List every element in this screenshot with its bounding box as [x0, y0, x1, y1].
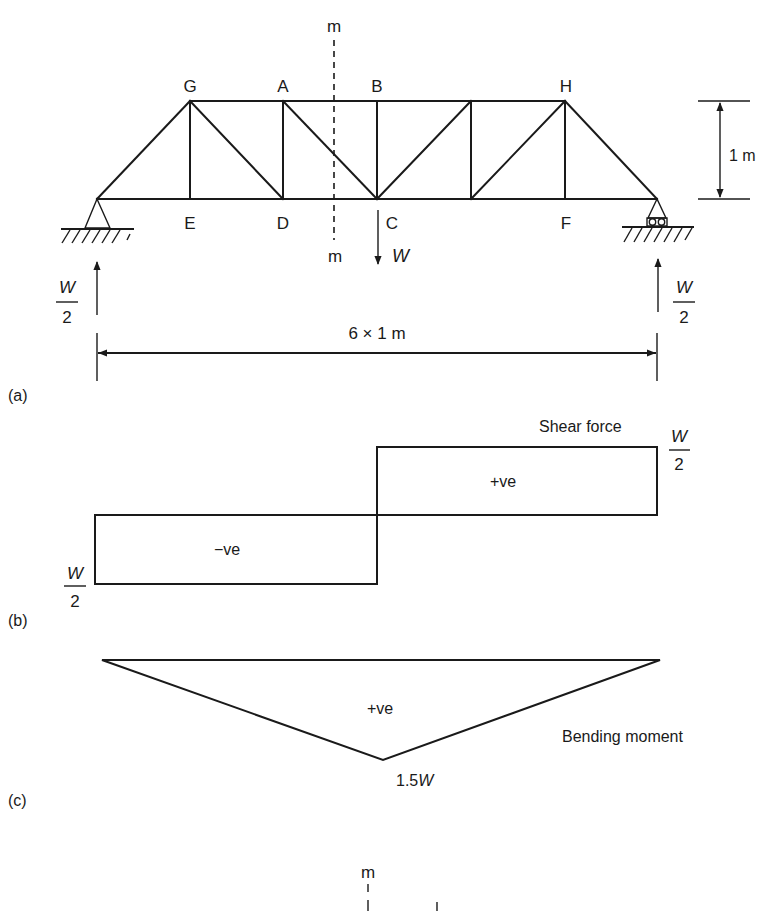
svg-text:W: W: [67, 564, 85, 583]
height-dimension-label: 1 m: [729, 147, 756, 164]
panel-label-c: (c): [8, 792, 27, 809]
panel-label-a: (a): [8, 387, 28, 404]
svg-text:W: W: [59, 278, 77, 297]
node-label-G: G: [183, 77, 196, 96]
svg-text:2: 2: [674, 455, 683, 474]
load-label: W: [392, 246, 411, 266]
node-label-C: C: [386, 214, 398, 233]
pin-support-icon: [62, 199, 133, 243]
positive-shear-region: [377, 447, 657, 515]
span-dimension-label: 6 × 1 m: [348, 324, 405, 343]
height-dimension: 1 m: [698, 101, 756, 199]
truss-members: [97, 101, 657, 199]
member-GD: [190, 101, 283, 199]
right-shear-value: W 2: [669, 427, 690, 474]
bending-moment-panel: +ve Bending moment 1.5W (c): [8, 660, 684, 809]
roller-support-icon: [623, 199, 693, 242]
section-fragment: m: [361, 863, 437, 911]
panel-label-b: (b): [8, 612, 28, 629]
section-label-top: m: [327, 17, 341, 36]
svg-text:2: 2: [62, 308, 71, 327]
shear-force-title: Shear force: [539, 418, 622, 435]
svg-text:2: 2: [679, 308, 688, 327]
span-dimension: 6 × 1 m: [97, 324, 657, 381]
node-label-D: D: [277, 214, 289, 233]
bending-moment-region-label: +ve: [367, 700, 393, 717]
member-right-end: [565, 101, 657, 199]
member-bottom5-H: [471, 101, 565, 199]
svg-text:W: W: [671, 427, 689, 446]
positive-shear-label: +ve: [490, 473, 516, 490]
node-label-F: F: [561, 214, 571, 233]
negative-shear-label: −ve: [214, 541, 240, 558]
truss-panel: m m G A B H E D C F: [8, 17, 756, 404]
svg-text:W: W: [676, 278, 694, 297]
member-AC: [283, 101, 377, 199]
left-reaction-label: W 2: [56, 278, 78, 327]
node-label-H: H: [560, 77, 572, 96]
shear-force-panel: Shear force W 2 +ve −ve W 2 (b): [8, 418, 690, 629]
node-label-E: E: [184, 214, 195, 233]
section-fragment-label: m: [361, 863, 375, 882]
right-reaction-label: W 2: [673, 278, 695, 327]
section-label-bottom: m: [328, 247, 342, 266]
member-C-top5: [377, 101, 471, 199]
max-moment-value: 1.5W: [396, 772, 435, 789]
bending-moment-title: Bending moment: [562, 728, 684, 745]
node-label-B: B: [371, 77, 382, 96]
left-shear-value: W 2: [64, 564, 86, 611]
node-label-A: A: [277, 77, 289, 96]
truss-analysis-figure: m m G A B H E D C F: [0, 0, 763, 911]
member-left-end: [97, 101, 190, 199]
svg-text:2: 2: [70, 592, 79, 611]
